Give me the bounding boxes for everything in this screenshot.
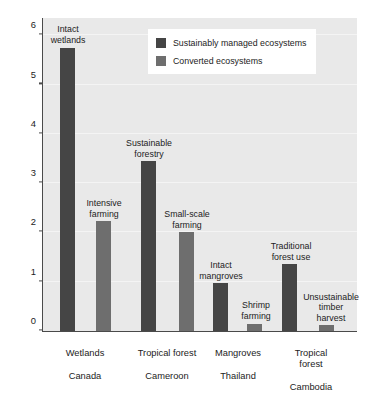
legend-item-converted[interactable]: Converted ecosystems [156,54,307,67]
y-tick-label-6: 6 [15,19,43,30]
x-group-line2-cameroon: Cameroon [145,371,188,381]
y-tick-label-4: 4 [15,117,43,128]
legend-label-converted: Converted ecosystems [173,56,262,66]
x-group-line2-thailand: Thailand [220,371,256,381]
annotation-intact-wetlands: Intact wetlands [51,24,86,45]
legend-item-sustainably-managed[interactable]: Sustainably managed ecosystems [156,36,307,49]
x-group-line1-tropical-forest-cambodia: Tropical forest [295,348,328,370]
y-tick-label-5: 5 [15,68,43,79]
x-group-label-tropical-forest-cambodia: Tropical forest Cambodia [284,336,338,394]
x-group-label-mangroves-thailand: Mangroves Thailand [215,336,261,382]
annotation-intact-mangroves: Intact mangroves [199,260,243,281]
annotation-intensive-farming: Intensive farming [86,198,121,219]
annotation-unsustainable-timber-harvest: Unsustainable timber harvest [303,292,359,323]
legend-swatch-sustainably-managed [156,38,166,48]
annotation-shrimp-farming: Shrimp farming [241,300,270,321]
x-group-line2-cambodia: Cambodia [290,382,332,392]
legend: Sustainably managed ecosystems Converted… [148,29,316,74]
x-group-label-wetlands-canada: Wetlands Canada [66,336,105,382]
x-group-label-tropical-forest-cameroon: Tropical forest Cameroon [138,336,197,382]
y-tick-label-2: 2 [15,216,43,227]
x-group-line2-canada: Canada [69,371,102,381]
x-group-line1-tropical-forest-cameroon: Tropical forest [138,348,197,358]
x-group-line1-mangroves: Mangroves [215,348,261,358]
legend-swatch-converted [156,56,166,66]
y-tick-label-3: 3 [15,167,43,178]
y-tick-label-0: 0 [15,315,43,326]
legend-label-sustainably-managed: Sustainably managed ecosystems [173,38,307,48]
annotation-small-scale-farming: Small-scale farming [164,209,209,230]
annotation-traditional-forest-use: Traditional forest use [271,241,312,262]
annotation-sustainable-forestry: Sustainable forestry [126,138,172,159]
y-tick-label-1: 1 [15,265,43,276]
x-group-line1-wetlands: Wetlands [66,348,105,358]
plot-area: 0 1 2 3 4 5 6 Intact wetlands Intensive … [42,18,357,332]
